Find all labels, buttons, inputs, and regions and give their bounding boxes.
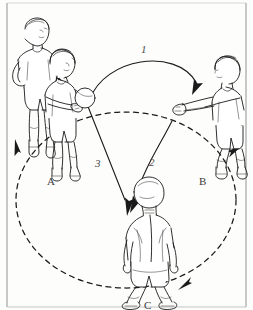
drill-diagram: .ln { fill:none; stroke:#1a1a1a; stroke-…: [0, 0, 253, 310]
step-label-3: 3: [95, 158, 101, 169]
step-label-1: 1: [141, 44, 147, 55]
step-label-2: 2: [149, 157, 155, 168]
ball-icon: [75, 88, 95, 108]
rotation-arrow-to-c: [178, 277, 192, 290]
position-label-c: C: [144, 300, 152, 310]
rotation-arrow-to-a: [15, 139, 22, 156]
trajectory-1: [90, 61, 203, 99]
player-b: [173, 56, 247, 179]
player-a-passer: [45, 49, 88, 181]
player-c: [122, 177, 178, 310]
position-label-b: B: [199, 176, 207, 187]
position-label-a: A: [47, 176, 55, 187]
diagram-canvas: .ln { fill:none; stroke:#1a1a1a; stroke-…: [0, 0, 253, 310]
